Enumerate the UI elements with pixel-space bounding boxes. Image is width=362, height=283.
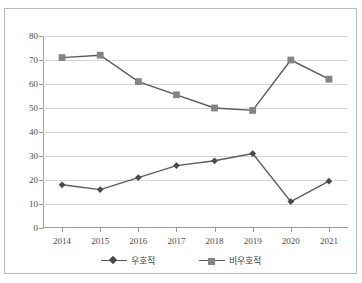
- square-data-marker: [211, 105, 218, 112]
- diamond-data-marker: [326, 178, 333, 185]
- legend-item-unfavorable[interactable]: 비우호적: [199, 254, 261, 267]
- diamond-data-marker: [135, 174, 142, 181]
- legend-label-unfavorable: 비우호적: [229, 254, 261, 267]
- chart-legend: 우호적 비우호적: [5, 254, 356, 267]
- y-axis-tick-label: 20: [29, 175, 38, 185]
- x-axis-tick-label: 2019: [244, 236, 262, 246]
- square-data-marker: [287, 57, 294, 64]
- square-data-marker: [326, 76, 333, 83]
- x-axis-tick-mark: [329, 228, 330, 232]
- square-data-marker: [59, 54, 66, 61]
- square-data-marker: [97, 52, 104, 59]
- y-axis-tick-label: 10: [29, 199, 38, 209]
- x-axis-tick-mark: [215, 228, 216, 232]
- y-axis-tick-label: 60: [29, 79, 38, 89]
- square-data-marker: [135, 78, 142, 85]
- x-axis-tick-label: 2014: [53, 236, 71, 246]
- legend-item-favorable[interactable]: 우호적: [101, 254, 155, 267]
- x-axis-tick-label: 2017: [167, 236, 185, 246]
- y-axis-tick-label: 80: [29, 31, 38, 41]
- square-data-marker: [249, 107, 256, 114]
- chart-frame: 01020304050607080 2014201520162017201820…: [4, 8, 357, 274]
- y-axis-tick-label: 40: [29, 127, 38, 137]
- x-axis-tick-label: 2016: [129, 236, 147, 246]
- y-axis-tick-label: 0: [34, 223, 39, 233]
- x-axis-tick-mark: [253, 228, 254, 232]
- diamond-data-marker: [59, 181, 66, 188]
- y-axis-tick-label: 70: [29, 55, 38, 65]
- x-axis-tick-mark: [176, 228, 177, 232]
- x-axis-tick-label: 2021: [320, 236, 338, 246]
- y-axis-tick-label: 50: [29, 103, 38, 113]
- x-axis-tick-mark: [291, 228, 292, 232]
- diamond-data-marker: [97, 186, 104, 193]
- x-axis-tick-mark: [62, 228, 63, 232]
- x-axis-tick-label: 2020: [282, 236, 300, 246]
- legend-label-favorable: 우호적: [131, 254, 155, 267]
- y-axis-tick-label: 30: [29, 151, 38, 161]
- x-axis-tick-label: 2018: [206, 236, 224, 246]
- diamond-data-marker: [211, 157, 218, 164]
- x-axis-tick-label: 2015: [91, 236, 109, 246]
- y-axis-tick-mark: [39, 228, 43, 229]
- square-data-marker: [173, 91, 180, 98]
- x-axis-tick-mark: [138, 228, 139, 232]
- diamond-marker-icon: [101, 256, 127, 265]
- x-axis-tick-mark: [100, 228, 101, 232]
- diamond-data-marker: [173, 162, 180, 169]
- series-line: [62, 55, 329, 110]
- series-line: [62, 154, 329, 202]
- square-marker-icon: [199, 256, 225, 265]
- series-lines: [43, 36, 348, 228]
- plot-area: 01020304050607080 2014201520162017201820…: [43, 36, 348, 228]
